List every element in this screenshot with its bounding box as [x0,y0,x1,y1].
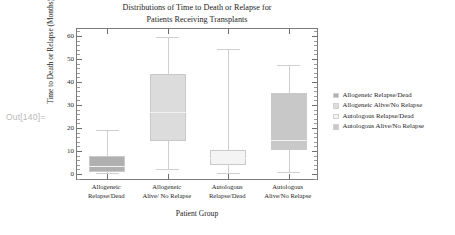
y-tick-label: 50 [67,55,74,62]
y-tick-minor [77,160,80,161]
y-tick-major-right [312,128,317,129]
y-tick-minor [77,146,80,147]
box-plot-1 [89,29,125,181]
plot-area: 0102030405060 [77,29,317,179]
y-tick-minor [314,73,317,74]
y-tick-minor [77,77,80,78]
y-tick-major [77,151,82,152]
legend-item-3[interactable]: Autologous Relapse/Dead [333,111,453,122]
y-tick-minor [314,96,317,97]
y-tick-minor [314,123,317,124]
y-tick-minor [314,133,317,134]
y-tick-label: 10 [67,148,74,155]
y-tick-minor [77,110,80,111]
y-tick-minor [77,100,80,101]
y-tick-major-right [312,174,317,175]
y-tick-minor [314,142,317,143]
y-tick-minor [314,45,317,46]
y-tick-major-right [312,59,317,60]
legend-swatch-icon [333,103,339,109]
y-tick-major [77,59,82,60]
y-tick-minor [77,64,80,65]
y-tick-minor [77,179,80,180]
y-tick-minor [77,68,80,69]
x-axis-title: Patient Group [76,209,318,218]
y-tick-major [77,128,82,129]
legend-swatch-icon [333,124,339,130]
chart-title: Distributions of Time to Death or Relaps… [76,2,318,25]
y-tick-minor [77,31,80,32]
y-tick-minor [314,31,317,32]
whisker-stem-lower [168,141,169,170]
y-tick-major [77,105,82,106]
whisker-cap-lower [96,173,119,174]
y-tick-minor [77,50,80,51]
whisker-stem-upper [168,37,169,74]
box-plot-4 [271,29,307,181]
y-tick-major [77,82,82,83]
legend-item-4[interactable]: Autologous Alive/No Relapse [333,122,453,133]
y-tick-label: 30 [67,102,74,109]
y-tick-minor [77,45,80,46]
mathematica-out-prompt: Out[140]= [6,112,45,122]
median-line [89,166,125,167]
y-tick-minor [77,165,80,166]
whisker-cap-lower [217,173,240,174]
legend-item-label: Autologous Relapse/Dead [343,113,414,120]
y-tick-minor [314,146,317,147]
whisker-stem-lower [289,150,290,172]
screenshot-root: Out[140]= Distributions of Time to Death… [0,0,455,235]
legend-item-label: Allogeneic Relapse/Dead [343,92,412,99]
y-tick-minor [77,114,80,115]
legend-item-label: Allogeneic Alive/No Relapse [343,102,423,109]
y-tick-minor [314,50,317,51]
y-tick-minor [77,73,80,74]
x-category-line-1: Autologous [252,183,324,192]
box-iqr [89,156,125,172]
whisker-cap-lower [156,169,179,170]
y-tick-minor [314,114,317,115]
whisker-stem-lower [228,165,229,173]
y-tick-minor [314,87,317,88]
y-tick-minor [77,137,80,138]
legend-swatch-icon [333,114,339,120]
chart-legend: Allogeneic Relapse/DeadAllogeneic Alive/… [333,90,453,132]
whisker-cap-upper [217,49,240,50]
whisker-stem-upper [289,65,290,94]
y-tick-minor [314,91,317,92]
y-tick-label: 20 [67,125,74,132]
median-line [210,158,246,159]
chart-title-line-1: Distributions of Time to Death or Relaps… [76,2,318,14]
y-tick-minor [314,156,317,157]
y-tick-major-right [312,151,317,152]
y-tick-major-right [312,82,317,83]
y-tick-major-right [312,36,317,37]
x-category-line-2: Alive/No Relapse [252,192,324,201]
y-tick-minor [77,123,80,124]
y-tick-major [77,36,82,37]
box-iqr [271,93,307,149]
plot-frame: 0102030405060 [76,28,318,180]
legend-item-1[interactable]: Allogeneic Relapse/Dead [333,90,453,101]
y-tick-minor [314,64,317,65]
legend-swatch-icon [333,93,339,99]
y-tick-minor [314,165,317,166]
y-tick-minor [314,110,317,111]
y-tick-label: 0 [71,171,75,178]
y-tick-minor [314,68,317,69]
legend-item-2[interactable]: Allogeneic Alive/No Relapse [333,101,453,112]
y-tick-major-right [312,105,317,106]
box-plot-2 [150,29,186,181]
whisker-stem-upper [228,49,229,150]
box-plot-3 [210,29,246,181]
whisker-cap-upper [277,65,300,66]
y-tick-major [77,174,82,175]
y-axis-title: Time to Death or Relapse (Months) [46,0,55,104]
y-tick-minor [77,91,80,92]
y-tick-minor [314,179,317,180]
chart-title-line-2: Patients Receiving Transplants [76,14,318,26]
y-tick-minor [314,137,317,138]
y-tick-minor [314,100,317,101]
box-iqr [150,74,186,141]
y-tick-minor [77,119,80,120]
